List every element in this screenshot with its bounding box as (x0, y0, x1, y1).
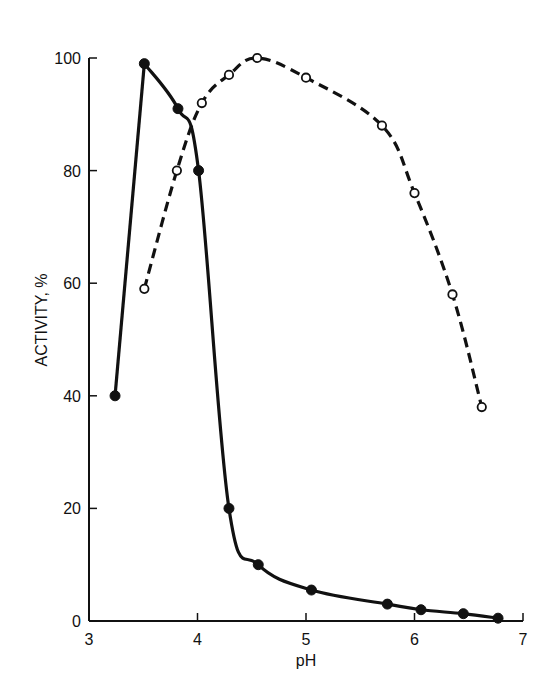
data-point-open (448, 290, 456, 298)
data-point-open (302, 74, 310, 82)
series-dashed-open (140, 54, 486, 411)
data-point-filled (382, 599, 392, 609)
data-point-open (225, 71, 233, 79)
data-point-filled (253, 560, 263, 570)
data-point-filled (110, 391, 120, 401)
x-axis-label: pH (296, 652, 316, 669)
y-tick-label: 100 (54, 50, 81, 67)
data-point-open (198, 99, 206, 107)
data-point-filled (458, 609, 468, 619)
x-tick-label: 3 (85, 631, 94, 648)
data-point-open (378, 121, 386, 129)
data-point-filled (173, 104, 183, 114)
x-tick-label: 6 (410, 631, 419, 648)
data-point-filled (224, 503, 234, 513)
data-point-filled (416, 605, 426, 615)
y-tick-label: 60 (63, 275, 81, 292)
series-line (115, 64, 144, 396)
data-point-filled (493, 613, 503, 623)
data-point-filled (194, 166, 204, 176)
y-tick-label: 40 (63, 388, 81, 405)
y-axis-label: ACTIVITY, % (33, 273, 50, 366)
x-tick-label: 7 (519, 631, 528, 648)
y-tick-label: 0 (72, 613, 81, 630)
activity-ph-chart: 02040608010034567 pH ACTIVITY, % (0, 0, 556, 698)
series-solid-filled (110, 59, 503, 624)
data-point-filled (306, 585, 316, 595)
series-line (144, 64, 498, 619)
y-tick-label: 80 (63, 163, 81, 180)
data-point-open (410, 189, 418, 197)
data-point-filled (139, 59, 149, 69)
tick-labels: 02040608010034567 (54, 50, 527, 648)
y-tick-label: 20 (63, 500, 81, 517)
data-point-open (173, 166, 181, 174)
series-line (144, 58, 481, 407)
axes (89, 58, 523, 621)
data-point-open (140, 285, 148, 293)
x-tick-label: 5 (302, 631, 311, 648)
data-point-open (478, 403, 486, 411)
data-point-open (253, 54, 261, 62)
x-tick-label: 4 (193, 631, 202, 648)
